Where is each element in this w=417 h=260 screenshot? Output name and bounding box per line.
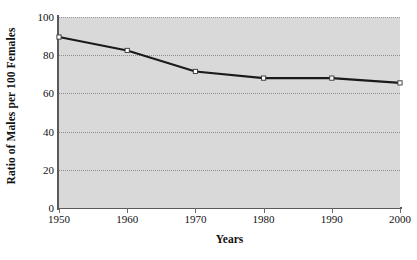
- y-axis-title: Ratio of Males per 100 Females: [0, 0, 22, 212]
- data-point-marker: [193, 69, 197, 73]
- data-point-marker: [398, 81, 402, 85]
- data-point-marker: [57, 35, 61, 39]
- x-axis-tick-label: 1960: [116, 213, 138, 225]
- y-axis-tick-label: 100: [22, 12, 54, 23]
- x-axis-tick-labels: 195019601970198019902000: [0, 213, 417, 231]
- y-axis-tick-labels: 020406080100: [22, 0, 54, 260]
- x-axis-tick-label: 2000: [389, 213, 411, 225]
- data-point-marker: [262, 76, 266, 80]
- x-axis-tick-mark: [264, 208, 265, 213]
- y-axis-tick-label: 80: [22, 50, 54, 61]
- data-point-marker: [125, 48, 129, 52]
- x-axis-tick-mark: [400, 208, 401, 213]
- line-chart-figure: Ratio of Males per 100 Females 020406080…: [0, 0, 417, 260]
- y-axis-tick-label: 0: [22, 203, 54, 214]
- x-axis-tick-mark: [332, 208, 333, 213]
- y-axis-tick-label: 40: [22, 126, 54, 137]
- x-axis-tick-label: 1990: [321, 213, 343, 225]
- x-axis-tick-mark: [59, 208, 60, 213]
- data-series-line: [59, 17, 400, 208]
- x-axis-tick-label: 1970: [184, 213, 206, 225]
- x-axis-tick-label: 1950: [48, 213, 70, 225]
- y-axis-title-text: Ratio of Males per 100 Females: [5, 27, 17, 184]
- plot-area: [59, 17, 400, 208]
- y-axis-tick-label: 60: [22, 88, 54, 99]
- x-axis-tick-mark: [195, 208, 196, 213]
- x-axis-tick-label: 1980: [253, 213, 275, 225]
- series-line: [59, 37, 400, 83]
- data-point-marker: [330, 76, 334, 80]
- x-axis-tick-mark: [127, 208, 128, 213]
- y-axis-tick-label: 20: [22, 164, 54, 175]
- x-axis-title: Years: [59, 233, 400, 245]
